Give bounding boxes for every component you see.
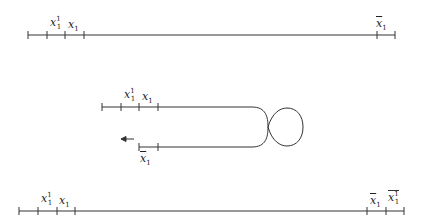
top-number-line [28, 31, 395, 39]
label-x1-bar: x1 [376, 18, 387, 32]
middle-loop-figure [102, 103, 303, 151]
diagram-canvas [0, 0, 426, 222]
label-x1: x1 [142, 91, 153, 105]
label-x1-bar: x1 [140, 153, 151, 167]
arrow-left-icon [121, 137, 134, 142]
label-x1-superscript-1-bar: x11 [388, 190, 399, 206]
label-x1-superscript-1: x11 [50, 16, 61, 31]
label-x1: x1 [59, 195, 70, 209]
label-x1-bar: x1 [370, 195, 381, 209]
label-x1-superscript-1: x11 [124, 88, 135, 103]
bottom-number-line [19, 207, 404, 215]
label-x1: x1 [68, 19, 79, 33]
label-x1-superscript-1: x11 [41, 192, 52, 207]
